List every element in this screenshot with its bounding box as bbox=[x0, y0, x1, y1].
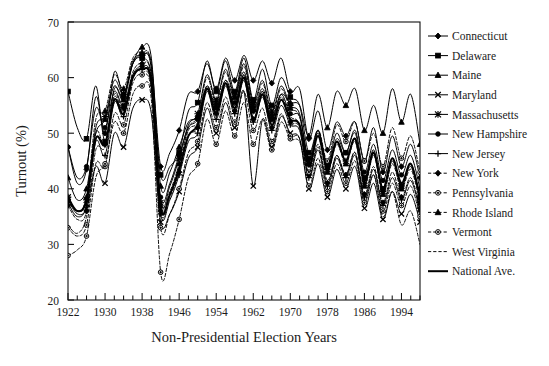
y-tick-label: 60 bbox=[48, 72, 60, 84]
data-point-circle-open bbox=[437, 192, 439, 194]
data-point-circle-open bbox=[382, 166, 384, 168]
data-point-square bbox=[84, 136, 89, 141]
legend-item-new-jersey[interactable]: New Jersey bbox=[428, 148, 506, 161]
turnout-line-chart: 203040506070Turnout (%)19221930193819461… bbox=[0, 0, 549, 366]
data-point-square bbox=[214, 89, 219, 94]
data-point-diamond bbox=[435, 33, 441, 39]
y-tick-label: 70 bbox=[48, 17, 60, 29]
data-point-circle-open bbox=[345, 141, 347, 143]
legend-item-maryland[interactable]: Maryland bbox=[428, 89, 497, 102]
x-tick-label: 1986 bbox=[353, 306, 376, 318]
data-point-circle-open bbox=[234, 135, 236, 137]
data-point-circle-open bbox=[271, 149, 273, 151]
data-point-circle-open bbox=[327, 160, 329, 162]
data-point-circle-open bbox=[234, 121, 236, 123]
legend-label: National Ave. bbox=[452, 265, 515, 277]
data-point-circle-open bbox=[437, 231, 439, 233]
legend-label: Delaware bbox=[452, 50, 496, 62]
data-point-circle-open bbox=[160, 227, 162, 229]
x-tick-label: 1922 bbox=[57, 306, 80, 318]
data-point-circle-open bbox=[86, 235, 88, 237]
legend-label: Pennsylvania bbox=[452, 187, 513, 200]
x-tick-label: 1994 bbox=[390, 306, 413, 318]
data-point-circle bbox=[84, 164, 88, 168]
legend-item-pennsylvania[interactable]: Pennsylvania bbox=[428, 187, 513, 200]
legend-label: West Virginia bbox=[452, 246, 515, 259]
data-point-circle-open bbox=[364, 202, 366, 204]
data-point-circle-open bbox=[178, 188, 180, 190]
y-axis: 203040506070Turnout (%) bbox=[13, 17, 74, 307]
data-point-square bbox=[66, 89, 71, 94]
x-axis-title: Non-Presidential Election Years bbox=[151, 329, 337, 345]
legend-label: Maine bbox=[452, 69, 481, 81]
data-point-circle-open bbox=[86, 224, 88, 226]
data-point-circle-open bbox=[160, 271, 162, 273]
data-point-circle-open bbox=[178, 219, 180, 221]
data-point-circle-open bbox=[252, 144, 254, 146]
y-tick-label: 20 bbox=[48, 295, 60, 307]
legend-item-new-york[interactable]: New York bbox=[428, 167, 499, 179]
y-tick-label: 50 bbox=[48, 128, 60, 140]
y-tick-label: 30 bbox=[48, 239, 60, 251]
data-point-circle-open bbox=[123, 124, 125, 126]
legend-item-rhode-island[interactable]: Rhode Island bbox=[428, 207, 513, 219]
data-point-circle-open bbox=[215, 127, 217, 129]
x-tick-label: 1978 bbox=[316, 306, 339, 318]
data-point-circle bbox=[103, 125, 107, 129]
x-tick-label: 1970 bbox=[279, 306, 302, 318]
data-point-circle-open bbox=[141, 85, 143, 87]
legend-label: Vermont bbox=[452, 226, 492, 238]
data-point-square bbox=[436, 53, 441, 58]
y-tick-label: 40 bbox=[48, 183, 60, 195]
legend-item-new-hampshire[interactable]: New Hampshire bbox=[428, 128, 527, 141]
x-tick-label: 1946 bbox=[168, 306, 191, 318]
data-point-circle-open bbox=[401, 157, 403, 159]
legend-label: New Jersey bbox=[452, 148, 506, 161]
legend-item-vermont[interactable]: Vermont bbox=[428, 226, 492, 238]
legend-label: New York bbox=[452, 167, 499, 179]
data-point-circle-open bbox=[197, 163, 199, 165]
legend-item-massachusetts[interactable]: Massachusetts bbox=[428, 109, 519, 121]
data-point-circle bbox=[344, 150, 348, 154]
data-point-circle-open bbox=[271, 141, 273, 143]
data-point-circle-open bbox=[382, 210, 384, 212]
legend-label: New Hampshire bbox=[452, 128, 527, 141]
chart-figure: 203040506070Turnout (%)19221930193819461… bbox=[0, 0, 549, 366]
data-point-star bbox=[120, 91, 127, 98]
data-point-circle-open bbox=[401, 205, 403, 207]
data-point-circle-open bbox=[327, 191, 329, 193]
data-point-circle-open bbox=[364, 160, 366, 162]
data-point-circle-open bbox=[345, 182, 347, 184]
data-point-star bbox=[435, 111, 442, 118]
legend-label: Rhode Island bbox=[452, 207, 513, 219]
data-point-circle bbox=[399, 173, 403, 177]
data-point-circle bbox=[66, 145, 70, 149]
x-tick-label: 1930 bbox=[94, 306, 117, 318]
y-axis-title: Turnout (%) bbox=[13, 125, 30, 197]
data-point-square bbox=[288, 95, 293, 100]
data-point-circle-open bbox=[197, 141, 199, 143]
data-point-circle-open bbox=[123, 132, 125, 134]
x-axis: 1922193019381946195419621970197819861994… bbox=[57, 293, 421, 345]
x-tick-label: 1962 bbox=[242, 306, 265, 318]
data-point-circle-open bbox=[104, 163, 106, 165]
legend-item-maine[interactable]: Maine bbox=[428, 69, 481, 81]
legend-item-national-ave-[interactable]: National Ave. bbox=[428, 265, 515, 277]
legend-item-west-virginia[interactable]: West Virginia bbox=[428, 246, 515, 259]
data-point-circle-open bbox=[215, 144, 217, 146]
data-point-circle-open bbox=[141, 74, 143, 76]
x-tick-label: 1954 bbox=[205, 306, 228, 318]
legend-item-delaware[interactable]: Delaware bbox=[428, 50, 496, 62]
data-point-plus bbox=[435, 150, 441, 156]
data-point-circle-open bbox=[290, 138, 292, 140]
data-point-circle-open bbox=[308, 185, 310, 187]
legend-label: Connecticut bbox=[452, 30, 508, 42]
legend-label: Massachusetts bbox=[452, 109, 519, 121]
legend-label: Maryland bbox=[452, 89, 497, 102]
data-point-circle bbox=[436, 132, 441, 137]
legend: ConnecticutDelawareMaineMarylandMassachu… bbox=[428, 30, 527, 277]
data-point-diamond bbox=[435, 170, 441, 176]
x-tick-label: 1938 bbox=[131, 306, 154, 318]
legend-item-connecticut[interactable]: Connecticut bbox=[428, 30, 508, 42]
data-point-circle-open bbox=[252, 130, 254, 132]
